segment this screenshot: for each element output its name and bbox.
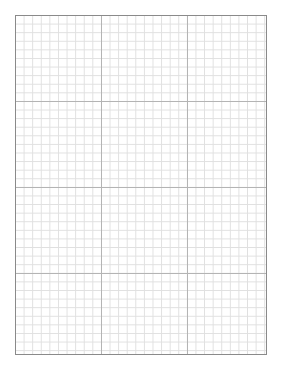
graph-paper-grid	[15, 15, 267, 355]
